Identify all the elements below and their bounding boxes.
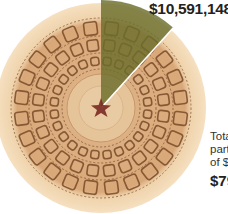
total-value-label: $79 (210, 172, 228, 189)
total-note-line-3: of $ (210, 156, 228, 169)
dome-pie-chart (0, 0, 228, 214)
total-note: Tota part of $ (210, 130, 228, 169)
total-note-line-1: Tota (210, 130, 228, 143)
total-note-line-2: part (210, 143, 228, 156)
highlight-value-label: $10,591,148 (149, 0, 228, 18)
